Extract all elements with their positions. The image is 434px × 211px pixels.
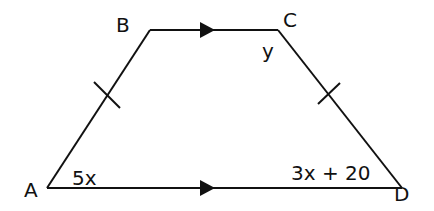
vertex-label-d: D — [394, 182, 409, 206]
side-ab — [47, 30, 150, 188]
parallel-arrow-bc-icon — [200, 22, 215, 38]
parallel-arrow-ad-icon — [200, 180, 215, 196]
vertex-label-c: C — [283, 8, 297, 32]
vertex-label-b: B — [116, 13, 130, 37]
trapezium-diagram: A B C D 5x y 3x + 20 — [0, 0, 434, 211]
angle-label-d: 3x + 20 — [291, 161, 370, 185]
angle-label-a: 5x — [72, 166, 97, 190]
equal-tick-ab-icon — [94, 82, 120, 108]
vertex-label-a: A — [24, 178, 38, 202]
angle-label-c: y — [262, 39, 274, 63]
